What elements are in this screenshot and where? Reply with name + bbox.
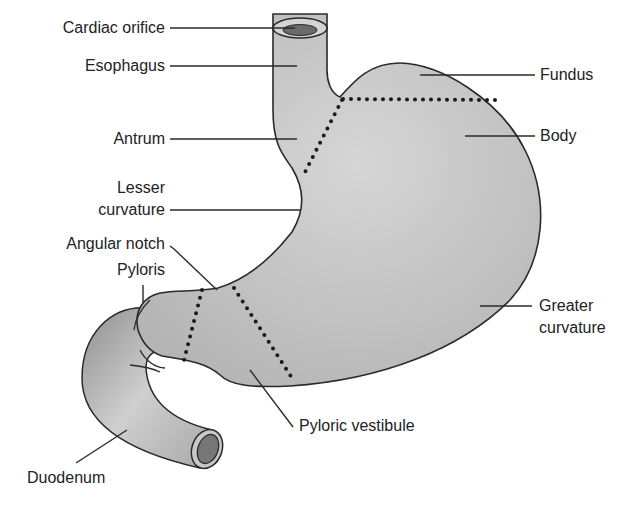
label-pyloris: Pyloris [117,260,165,280]
label-greater-curvature-line1: Greater [539,296,593,316]
label-angular-notch: Angular notch [66,234,165,254]
label-duodenum: Duodenum [27,468,105,488]
label-body: Body [540,126,576,146]
label-antrum: Antrum [113,129,165,149]
stomach-shape [137,14,541,387]
label-fundus: Fundus [540,65,593,85]
label-cardiac-orifice: Cardiac orifice [63,18,165,38]
label-lesser-curvature-line1: Lesser [117,178,165,198]
label-esophagus: Esophagus [85,56,165,76]
label-greater-curvature-line2: curvature [539,318,606,338]
stomach-diagram: Cardiac orifice Esophagus Antrum Lesser … [0,0,637,505]
label-lesser-curvature-line2: curvature [98,200,165,220]
label-pyloric-vestibule: Pyloric vestibule [299,416,415,436]
